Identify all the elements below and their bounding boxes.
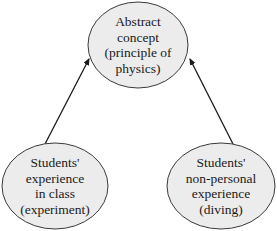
node-line: Abstract — [115, 14, 161, 30]
node-line: in class — [35, 186, 75, 202]
node-line: experience — [26, 171, 84, 187]
node-line: Students' — [31, 155, 80, 171]
arrow-nonpersonal-to-concept — [190, 59, 233, 144]
node-line: non-personal — [186, 171, 256, 187]
node-experience-in-class-label: Students' experience in class (experimen… — [2, 145, 108, 227]
arrow-class-to-concept — [45, 59, 89, 144]
node-non-personal-experience-label: Students' non-personal experience (divin… — [167, 145, 275, 227]
node-line: physics) — [116, 61, 161, 77]
node-line: concept — [117, 30, 159, 46]
node-line: (experiment) — [20, 202, 90, 218]
node-line: (principle of — [104, 45, 171, 61]
node-line: Students' — [197, 155, 246, 171]
node-line: (diving) — [199, 202, 243, 218]
node-line: experience — [192, 186, 250, 202]
node-abstract-concept-label: Abstract concept (principle of physics) — [88, 4, 188, 86]
